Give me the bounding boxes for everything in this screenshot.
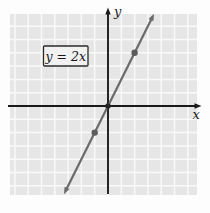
equation-label: y = 2x [45, 49, 87, 64]
worksheet-figure: y = 2x y x [0, 0, 210, 213]
data-point [131, 50, 137, 56]
line-graph: y = 2x y x [0, 0, 210, 213]
data-point [92, 129, 98, 135]
origin-point [105, 103, 110, 108]
equation-label-box: y = 2x [44, 46, 89, 66]
y-axis-arrow [105, 8, 110, 15]
grid-background [10, 14, 197, 195]
grid [10, 14, 197, 195]
x-axis-label: x [193, 107, 201, 122]
y-axis-label: y [113, 4, 122, 19]
